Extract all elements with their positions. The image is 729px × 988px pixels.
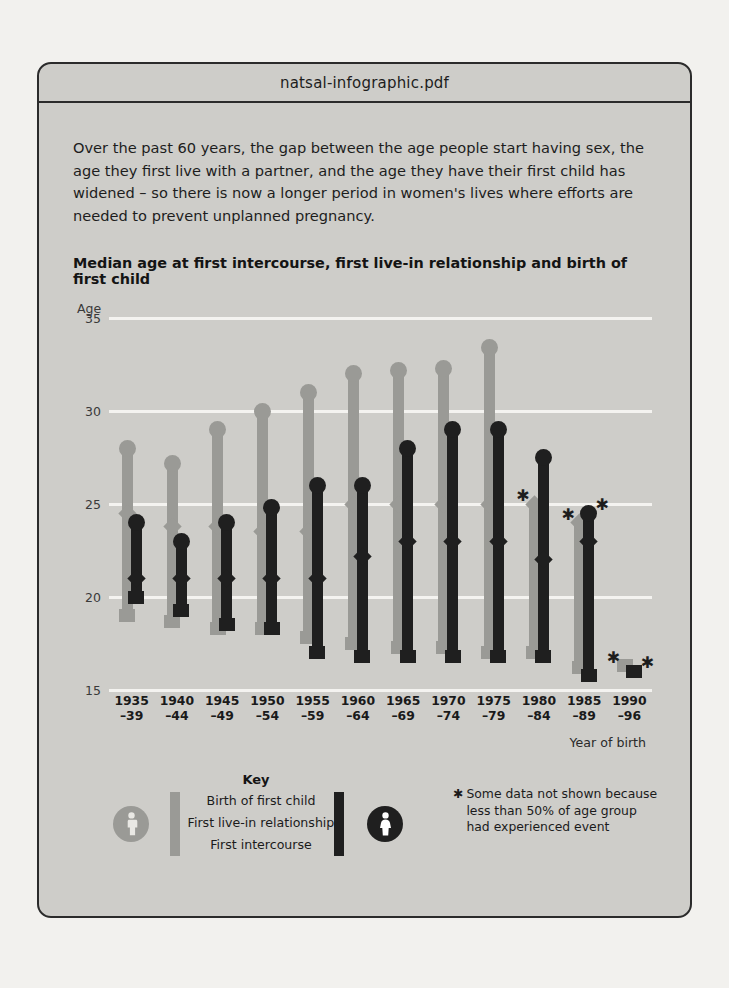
- x-tick-year-start: 1980: [522, 693, 557, 708]
- y-axis-tick: 30: [85, 404, 101, 419]
- x-axis-tick-label: 1950–54: [250, 693, 285, 723]
- chart-column: ✱✱: [619, 318, 639, 690]
- chart-column: [122, 318, 142, 690]
- x-axis-tick-label: 1975–79: [476, 693, 511, 723]
- marker-birth-of-first-child-men: [390, 362, 407, 379]
- x-axis-tick-label: 1935–39: [114, 693, 149, 723]
- x-axis-tick-label: 1990–96: [612, 693, 647, 723]
- x-axis-tick-label: 1970–74: [431, 693, 466, 723]
- x-tick-year-end: –89: [572, 708, 595, 723]
- missing-data-asterisk: ✱: [641, 655, 654, 671]
- x-tick-year-end: –96: [618, 708, 641, 723]
- x-tick-year-end: –44: [165, 708, 188, 723]
- key-bar-women: [334, 792, 344, 856]
- y-axis-tick: 20: [85, 590, 101, 605]
- range-bar-women: [357, 485, 368, 656]
- x-axis-label: Year of birth: [73, 735, 646, 750]
- x-tick-year-end: –59: [301, 708, 324, 723]
- range-bar-women: [402, 448, 413, 656]
- x-axis-tick-label: 1980–84: [522, 693, 557, 723]
- marker-birth-of-first-child-women: [128, 514, 145, 531]
- marker-birth-of-first-child-women: [444, 421, 461, 438]
- document-body: Over the past 60 years, the gap between …: [39, 103, 690, 876]
- x-tick-year-start: 1975: [476, 693, 511, 708]
- marker-first-intercourse-women: [128, 591, 144, 604]
- chart-column: [393, 318, 413, 690]
- x-tick-year-start: 1960: [341, 693, 376, 708]
- x-tick-year-end: –54: [256, 708, 279, 723]
- chart-column: [167, 318, 187, 690]
- gridline: [109, 410, 652, 413]
- marker-birth-of-first-child-women: [218, 514, 235, 531]
- y-axis-tick: 15: [85, 683, 101, 698]
- marker-birth-of-first-child-men: [481, 339, 498, 356]
- marker-birth-of-first-child-men: [300, 384, 317, 401]
- chart-column: ✱✱: [574, 318, 594, 690]
- footnote-line-3: had experienced event: [466, 819, 609, 834]
- x-tick-year-start: 1955: [295, 693, 330, 708]
- missing-data-asterisk: ✱: [607, 650, 620, 666]
- gridline: [109, 596, 652, 599]
- missing-data-asterisk: ✱: [595, 497, 608, 513]
- x-tick-year-start: 1945: [205, 693, 240, 708]
- range-bar-women: [266, 508, 277, 629]
- chart-column: ✱: [529, 318, 549, 690]
- male-person-icon: [113, 806, 149, 842]
- x-axis-tick-label: 1985–89: [567, 693, 602, 723]
- x-axis-tick-label: 1960–64: [341, 693, 376, 723]
- marker-birth-of-first-child-men: [209, 421, 226, 438]
- marker-first-intercourse-women: [400, 650, 416, 663]
- document-filename: natsal-infographic.pdf: [280, 74, 449, 92]
- marker-first-intercourse-women: [445, 650, 461, 663]
- x-axis-tick-label: 1955–59: [295, 693, 330, 723]
- marker-birth-of-first-child-men: [119, 440, 136, 457]
- marker-first-intercourse-women: [354, 650, 370, 663]
- x-tick-year-start: 1940: [160, 693, 195, 708]
- marker-birth-of-first-child-women: [173, 533, 190, 550]
- marker-birth-of-first-child-women: [535, 449, 552, 466]
- marker-birth-of-first-child-men: [164, 455, 181, 472]
- intro-paragraph: Over the past 60 years, the gap between …: [73, 137, 656, 227]
- y-axis-tick: 25: [85, 497, 101, 512]
- asterisk-icon: ✱: [453, 786, 463, 801]
- chart-key: Key Birth of first child First live-in r…: [91, 772, 421, 860]
- marker-first-intercourse-women: [535, 650, 551, 663]
- marker-first-intercourse-men: [119, 609, 135, 622]
- chart-title: Median age at first intercourse, first l…: [73, 255, 656, 287]
- gridline: [109, 317, 652, 320]
- x-tick-year-end: –49: [210, 708, 233, 723]
- key-label-birth: Birth of first child: [187, 790, 335, 812]
- marker-birth-of-first-child-women: [354, 477, 371, 494]
- marker-birth-of-first-child-women: [490, 421, 507, 438]
- chart-column: [212, 318, 232, 690]
- key-heading: Key: [91, 772, 421, 787]
- gridline: [109, 689, 652, 692]
- marker-birth-of-first-child-men: [254, 403, 271, 420]
- x-axis: 1935–391940–441945–491950–541955–591960–…: [109, 693, 656, 733]
- y-axis-label: Age: [77, 301, 656, 316]
- key-label-intercourse: First intercourse: [187, 834, 335, 856]
- document-panel: natsal-infographic.pdf Over the past 60 …: [37, 62, 692, 918]
- key-labels: Birth of first child First live-in relat…: [187, 790, 335, 856]
- marker-first-intercourse-women: [626, 665, 642, 678]
- x-tick-year-end: –64: [346, 708, 369, 723]
- chart-column: [484, 318, 504, 690]
- document-title-bar: natsal-infographic.pdf: [39, 64, 690, 103]
- x-axis-tick-label: 1965–69: [386, 693, 421, 723]
- x-axis-tick-label: 1940–44: [160, 693, 195, 723]
- x-tick-year-end: –39: [120, 708, 143, 723]
- missing-data-asterisk: ✱: [561, 507, 574, 523]
- marker-birth-of-first-child-women: [309, 477, 326, 494]
- marker-first-intercourse-women: [309, 646, 325, 659]
- x-axis-tick-label: 1945–49: [205, 693, 240, 723]
- x-tick-year-start: 1990: [612, 693, 647, 708]
- footnote-line-2: less than 50% of age group: [466, 803, 636, 818]
- x-tick-year-start: 1935: [114, 693, 149, 708]
- marker-first-intercourse-women: [173, 604, 189, 617]
- marker-birth-of-first-child-men: [435, 360, 452, 377]
- x-tick-year-start: 1970: [431, 693, 466, 708]
- key-label-livein: First live-in relationship: [187, 812, 335, 834]
- chart-column: [438, 318, 458, 690]
- chart-column: [303, 318, 323, 690]
- marker-birth-of-first-child-men: [345, 365, 362, 382]
